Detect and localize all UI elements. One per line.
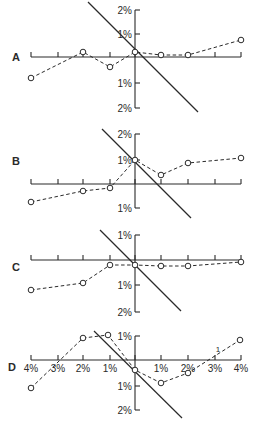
data-point-marker xyxy=(80,335,86,341)
data-point-marker xyxy=(158,380,164,386)
y-tick-label: 1% xyxy=(118,280,133,291)
y-tick-label: 2% xyxy=(118,5,133,16)
y-tick-label: 1% xyxy=(118,230,133,241)
data-series-line xyxy=(31,158,241,202)
panel-label: C xyxy=(12,261,20,273)
y-tick-label: 1% xyxy=(118,381,133,392)
x-tick-label: 1% xyxy=(103,363,118,374)
panel-d: D4%3%2%1%1%2%3%4%1%1%2%1 xyxy=(8,331,248,418)
data-point-marker xyxy=(105,332,111,338)
data-point-marker xyxy=(158,172,164,178)
data-point-marker xyxy=(238,37,244,43)
data-point-marker xyxy=(80,280,86,286)
y-tick-label: 1% xyxy=(118,78,133,89)
panel-a: A2%1%1%2% xyxy=(12,2,244,114)
data-point-marker xyxy=(107,64,113,70)
data-point-marker xyxy=(28,75,34,81)
data-point-marker xyxy=(158,52,164,58)
panel-b: B2%1%1% xyxy=(12,129,244,218)
data-point-marker xyxy=(28,287,34,293)
data-point-marker xyxy=(132,367,138,373)
y-tick-label: 2% xyxy=(118,405,133,416)
figure-four-panel-chart: A2%1%1%2%B2%1%1%C1%1%2%D4%3%2%1%1%2%3%4%… xyxy=(0,0,258,422)
data-point-marker xyxy=(107,185,113,191)
data-point-marker xyxy=(80,49,86,55)
data-point-marker xyxy=(132,157,138,163)
data-point-marker xyxy=(185,370,191,376)
y-tick-label: 1% xyxy=(118,331,133,342)
y-tick-label: 2% xyxy=(118,307,133,318)
y-tick-label: 2% xyxy=(118,103,133,114)
panel-label: D xyxy=(8,361,16,373)
x-tick-label: 3% xyxy=(208,363,223,374)
x-tick-label: 2% xyxy=(76,363,91,374)
reference-diagonal-line xyxy=(102,129,191,218)
x-tick-label: 3% xyxy=(51,363,66,374)
data-point-marker xyxy=(185,160,191,166)
y-tick-label: 1% xyxy=(118,203,133,214)
data-series-line xyxy=(31,40,241,78)
x-tick-label: 1% xyxy=(154,363,169,374)
data-point-marker xyxy=(80,188,86,194)
reference-diagonal-line xyxy=(100,230,181,311)
x-tick-label: 4% xyxy=(24,363,39,374)
data-point-marker xyxy=(185,52,191,58)
data-point-marker xyxy=(238,259,244,265)
panel-c: C1%1%2% xyxy=(12,230,244,318)
annotation-label: 1 xyxy=(216,345,221,354)
data-point-marker xyxy=(238,155,244,161)
data-point-marker xyxy=(158,263,164,269)
panel-label: A xyxy=(12,51,20,63)
data-point-marker xyxy=(132,262,138,268)
data-point-marker xyxy=(28,199,34,205)
x-tick-label: 4% xyxy=(234,363,249,374)
panel-label: B xyxy=(12,155,20,167)
data-point-marker xyxy=(237,337,243,343)
data-point-marker xyxy=(28,385,34,391)
y-tick-label: 2% xyxy=(118,129,133,140)
data-point-marker xyxy=(132,49,138,55)
data-point-marker xyxy=(107,262,113,268)
data-point-marker xyxy=(185,263,191,269)
reference-diagonal-line xyxy=(94,331,182,418)
